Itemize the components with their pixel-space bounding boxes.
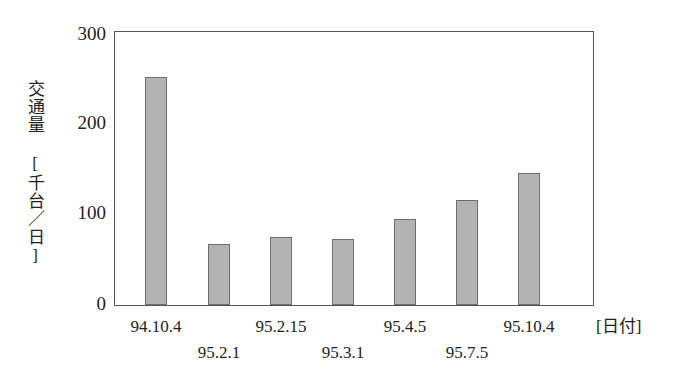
bar-chart-figure: 交通量 [千台／日] 300 200 100 0 94.10.4 95.2.1 … — [0, 0, 677, 379]
x-tick-label-95-3-1: 95.3.1 — [293, 344, 393, 361]
bar-95-7-5 — [456, 200, 478, 305]
y-tick-label-200: 200 — [50, 113, 106, 132]
bar-95-3-1 — [332, 239, 354, 305]
x-axis-title: [日付] — [596, 318, 641, 335]
x-tick-label-95-7-5: 95.7.5 — [417, 344, 517, 361]
x-tick-label-95-4-5: 95.4.5 — [355, 318, 455, 335]
x-tick-label-95-2-15: 95.2.15 — [231, 318, 331, 335]
y-axis-title: 交通量 [千台／日] — [20, 48, 50, 298]
bar-94-10-4 — [145, 77, 167, 305]
bar-95-10-4 — [518, 173, 540, 305]
y-tick-label-0: 0 — [50, 294, 106, 313]
bar-95-2-15 — [270, 237, 292, 306]
y-tick-label-100: 100 — [50, 203, 106, 222]
x-tick-label-95-10-4: 95.10.4 — [479, 318, 579, 335]
x-tick-label-95-2-1: 95.2.1 — [169, 344, 269, 361]
bar-95-4-5 — [394, 219, 416, 305]
x-tick-label-94-10-4: 94.10.4 — [106, 318, 206, 335]
y-tick-label-300: 300 — [50, 24, 106, 43]
bar-95-2-1 — [208, 244, 230, 305]
